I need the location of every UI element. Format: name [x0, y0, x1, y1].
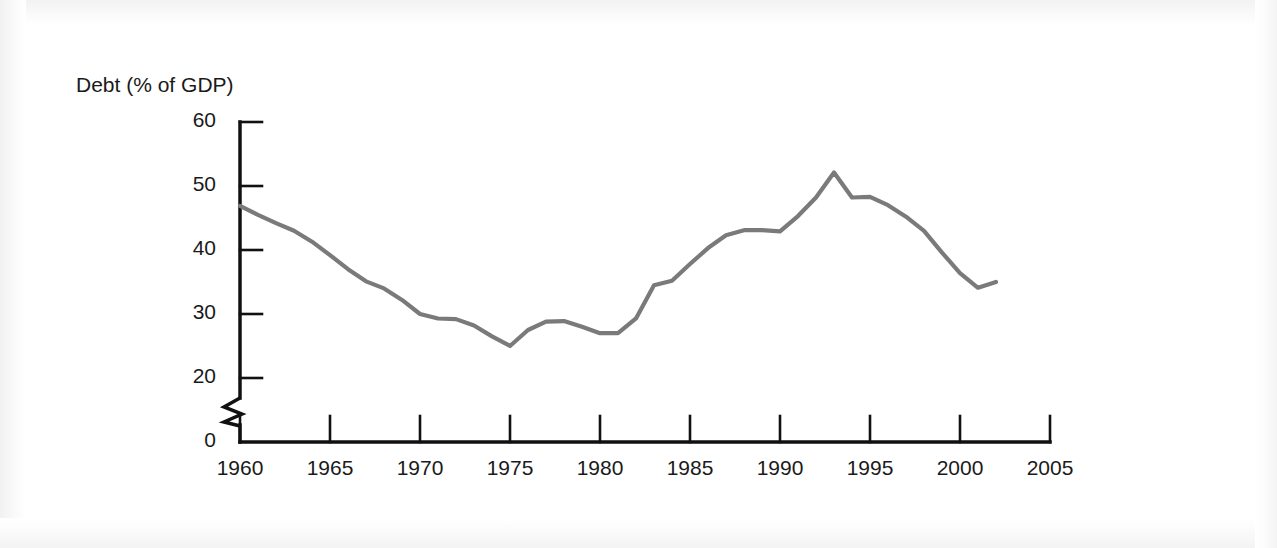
- x-tick-label-1960: 1960: [200, 456, 280, 480]
- series-line-0: [240, 173, 996, 346]
- x-tick-label-1965: 1965: [290, 456, 370, 480]
- y-tick-label-50: 50: [156, 172, 216, 196]
- axis-group: [224, 122, 1050, 442]
- tick-marks: [240, 122, 1050, 442]
- x-tick-label-1995: 1995: [830, 456, 910, 480]
- x-tick-label-2005: 2005: [1010, 456, 1090, 480]
- chart-figure: Debt (% of GDP) 020304050601960196519701…: [0, 0, 1277, 548]
- y-tick-label-40: 40: [156, 236, 216, 260]
- y-tick-label-30: 30: [156, 300, 216, 324]
- x-tick-label-1990: 1990: [740, 456, 820, 480]
- y-tick-label-20: 20: [156, 364, 216, 388]
- x-tick-label-1970: 1970: [380, 456, 460, 480]
- y-tick-label-60: 60: [156, 108, 216, 132]
- y-tick-label-0: 0: [156, 428, 216, 452]
- x-tick-label-1985: 1985: [650, 456, 730, 480]
- x-tick-label-1975: 1975: [470, 456, 550, 480]
- data-series-group: [240, 173, 996, 346]
- x-tick-label-2000: 2000: [920, 456, 1000, 480]
- x-tick-label-1980: 1980: [560, 456, 640, 480]
